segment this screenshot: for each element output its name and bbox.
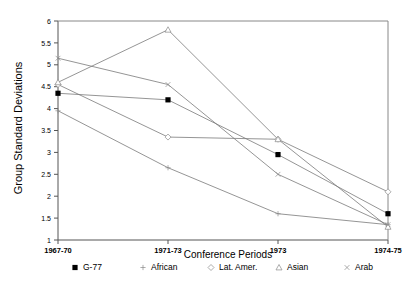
y-tick-label: 5.5 (41, 40, 51, 47)
y-tick-label: 5 (47, 61, 51, 68)
legend-item-african[interactable]: African (140, 262, 177, 272)
y-tick-label: 3.5 (41, 127, 51, 134)
x-category-label: 1967-70 (44, 246, 72, 255)
y-axis-title: Group Standard Deviations (12, 61, 24, 194)
chart-legend: G-77AfricanLat. Amer.AsianArab (72, 262, 373, 272)
y-tick-label: 4 (47, 105, 51, 112)
legend-label: Asian (287, 262, 309, 272)
series-line-asian (58, 30, 388, 227)
legend-marker-plus (140, 265, 145, 270)
y-tick-label: 4.5 (41, 83, 51, 90)
data-point-triangle (165, 27, 171, 32)
legend-label: G-77 (83, 262, 102, 272)
axis-ticks (54, 21, 388, 244)
x-category-label: 1971-73 (154, 246, 182, 255)
legend-marker-diamond (208, 265, 214, 271)
y-tick-labels: 11.522.533.544.555.56 (41, 18, 51, 244)
data-point-cross (276, 172, 281, 177)
legend-item-g-77[interactable]: G-77 (72, 262, 102, 272)
legend-marker-cross (345, 265, 350, 270)
y-tick-label: 1.5 (41, 215, 51, 222)
data-point-filled-square (385, 211, 390, 216)
x-axis-title: Conference Periods (184, 249, 272, 260)
series-line-lat-amer (58, 85, 388, 192)
y-tick-label: 2.5 (41, 171, 51, 178)
legend-item-asian[interactable]: Asian (276, 262, 309, 272)
legend-marker-filled-square (72, 265, 77, 270)
legend-item-lat-amer[interactable]: Lat. Amer. (208, 262, 257, 272)
legend-marker-triangle (276, 265, 282, 270)
legend-label: Lat. Amer. (219, 262, 257, 272)
series-line-arab (58, 58, 388, 224)
data-point-filled-square (55, 91, 60, 96)
series-markers (55, 27, 391, 230)
series-lines (58, 30, 388, 227)
y-tick-label: 1 (47, 237, 51, 244)
y-tick-label: 3 (47, 149, 51, 156)
data-point-filled-square (275, 152, 280, 157)
data-point-diamond (385, 189, 391, 195)
chart-container: 11.522.533.544.555.56 1967-701971-731973… (0, 0, 406, 286)
legend-label: Arab (355, 262, 373, 272)
data-point-triangle (55, 79, 61, 84)
x-category-label: 1974-75 (374, 246, 402, 255)
y-tick-label: 6 (47, 18, 51, 25)
plot-frame (58, 21, 388, 240)
series-line-g-77 (58, 93, 388, 213)
legend-label: African (151, 262, 178, 272)
line-chart: 11.522.533.544.555.56 1967-701971-731973… (0, 0, 406, 286)
data-point-plus (165, 165, 170, 170)
data-point-filled-square (165, 97, 170, 102)
data-point-plus (275, 211, 280, 216)
data-point-diamond (165, 134, 171, 140)
legend-item-arab[interactable]: Arab (345, 262, 374, 272)
y-tick-label: 2 (47, 193, 51, 200)
